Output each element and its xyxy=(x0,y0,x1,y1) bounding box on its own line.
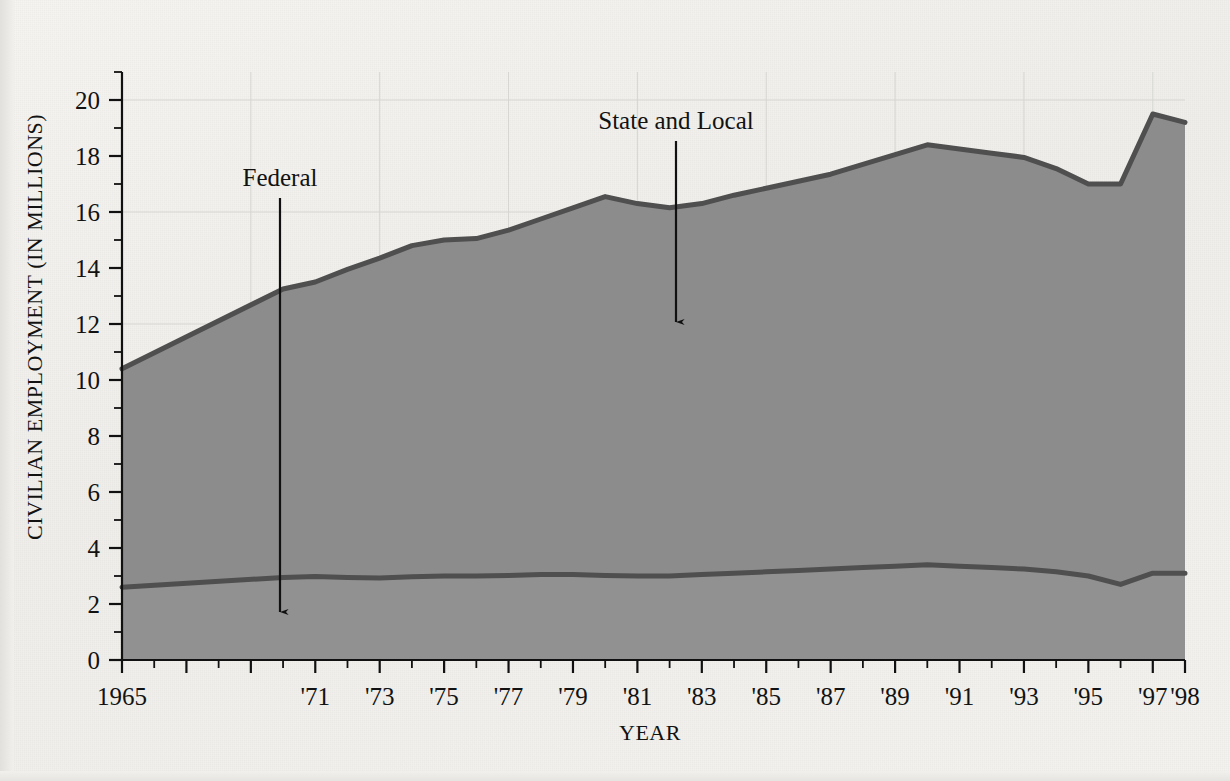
state-and-local-annotation-label: State and Local xyxy=(598,107,754,134)
x-tick-label: 1965 xyxy=(97,683,147,710)
civilian-employment-area-chart: 02468101214161820 1965'71'73'75'77'79'81… xyxy=(0,0,1230,781)
y-tick-label: 8 xyxy=(88,423,101,450)
x-tick-label: '71 xyxy=(301,683,331,710)
y-tick-label: 10 xyxy=(75,367,100,394)
x-axis-ticks xyxy=(122,660,1185,673)
chart-page: 02468101214161820 1965'71'73'75'77'79'81… xyxy=(0,0,1230,781)
x-tick-label: '79 xyxy=(558,683,588,710)
x-tick-label: '81 xyxy=(623,683,653,710)
y-axis-tick-labels: 02468101214161820 xyxy=(75,87,101,674)
y-tick-label: 14 xyxy=(75,255,101,282)
x-tick-label: '75 xyxy=(429,683,459,710)
x-tick-label: '89 xyxy=(880,683,910,710)
y-tick-label: 2 xyxy=(88,591,101,618)
x-tick-label: '95 xyxy=(1074,683,1104,710)
y-axis-ticks xyxy=(109,72,122,660)
y-tick-label: 4 xyxy=(88,535,101,562)
x-tick-label: '85 xyxy=(751,683,781,710)
x-axis-tick-labels: 1965'71'73'75'77'79'81'83'85'87'89'91'93… xyxy=(97,683,1200,710)
y-tick-label: 16 xyxy=(75,199,100,226)
x-tick-label: '83 xyxy=(687,683,717,710)
x-tick-label: '98 xyxy=(1170,683,1200,710)
x-tick-label: '91 xyxy=(945,683,975,710)
x-tick-label: '93 xyxy=(1009,683,1039,710)
x-tick-label: '77 xyxy=(494,683,524,710)
y-tick-label: 18 xyxy=(75,143,100,170)
y-axis-title: CIVILIAN EMPLOYMENT (IN MILLIONS) xyxy=(22,114,47,540)
y-tick-label: 12 xyxy=(75,311,100,338)
x-tick-label: '73 xyxy=(365,683,395,710)
x-axis-title: YEAR xyxy=(619,720,681,745)
y-tick-label: 6 xyxy=(88,479,101,506)
y-tick-label: 20 xyxy=(75,87,100,114)
x-tick-label: '87 xyxy=(816,683,846,710)
x-tick-label: '97 xyxy=(1138,683,1168,710)
federal-annotation-label: Federal xyxy=(243,164,318,191)
y-tick-label: 0 xyxy=(88,647,101,674)
